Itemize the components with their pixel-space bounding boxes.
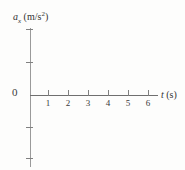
x-axis-tick [88, 90, 89, 96]
y-axis-tick [26, 29, 33, 30]
x-axis-tick [48, 90, 49, 96]
y-axis-unit-open: (m/s [21, 11, 41, 22]
x-axis-tick [108, 90, 109, 96]
y-axis-tick [26, 127, 33, 128]
x-tick-label-6: 6 [146, 98, 151, 109]
acceleration-time-graph: ax (m/s2) 0 1 2 3 4 5 6 t (s) [0, 0, 185, 170]
x-tick-label-3: 3 [86, 98, 91, 109]
y-axis-tick [26, 62, 33, 63]
x-axis-label: t (s) [161, 88, 177, 101]
x-axis-tick [68, 90, 69, 96]
y-axis-unit-close: ) [45, 11, 48, 22]
x-tick-label-1: 1 [46, 98, 51, 109]
x-axis-tick [128, 90, 129, 96]
y-axis-tick [26, 158, 33, 159]
origin-label: 0 [12, 86, 18, 98]
x-tick-label-5: 5 [126, 98, 131, 109]
y-axis-line [30, 28, 31, 167]
x-tick-label-4: 4 [106, 98, 111, 109]
y-axis-label: ax (m/s2) [13, 8, 48, 28]
x-tick-label-2: 2 [66, 98, 71, 109]
x-axis-unit: (s) [164, 89, 177, 100]
x-axis-tick [148, 90, 149, 96]
x-axis-line [30, 95, 158, 96]
